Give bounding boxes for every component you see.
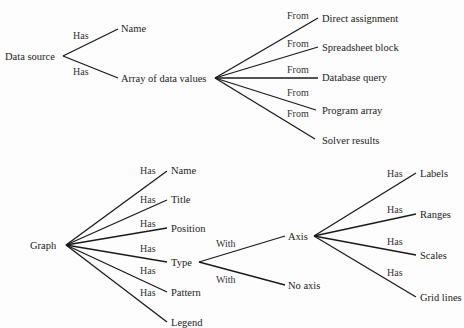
edge-label-has: Has (387, 267, 403, 278)
node-legend: Legend (171, 317, 203, 328)
node-spreadsheet-block: Spreadsheet block (322, 42, 399, 53)
diagram-canvas: Data source Name Array of data values Di… (0, 0, 464, 328)
node-scales: Scales (420, 250, 447, 261)
edge-type-no-axis (199, 262, 285, 285)
edge-label-with: With (216, 274, 236, 285)
node-direct-assignment: Direct assignment (322, 13, 398, 24)
node-solver-results: Solver results (322, 135, 379, 146)
edge-label-has: Has (140, 165, 156, 176)
node-position: Position (171, 223, 206, 234)
edge-label-has: Has (387, 204, 403, 215)
edge-data-source-name (63, 29, 118, 56)
edge-label-has: Has (73, 30, 89, 41)
edge-label-has: Has (140, 218, 156, 229)
node-no-axis: No axis (288, 280, 320, 291)
edge-label-from: From (287, 10, 309, 21)
node-name: Name (171, 165, 196, 176)
edge-label-from: From (287, 64, 309, 75)
edge-label-has: Has (140, 265, 156, 276)
node-graph: Graph (30, 240, 57, 251)
node-axis: Axis (288, 231, 308, 242)
node-title: Title (171, 194, 191, 205)
edge-axis-ranges (314, 214, 416, 236)
node-labels: Labels (420, 168, 448, 179)
edge-label-has: Has (387, 168, 403, 179)
data-source-tree: Data source Name Array of data values Di… (5, 10, 399, 146)
edge-label-from: From (287, 108, 309, 119)
node-name: Name (121, 23, 146, 34)
edge-graph-name (66, 171, 167, 245)
edge-label-with: With (216, 238, 236, 249)
node-program-array: Program array (322, 105, 383, 116)
edge-label-has: Has (387, 236, 403, 247)
edge-label-has: Has (140, 243, 156, 254)
edge-data-source-array (63, 56, 118, 78)
node-data-source: Data source (5, 51, 55, 62)
node-grid-lines: Grid lines (420, 292, 462, 303)
edge-label-has: Has (140, 194, 156, 205)
node-ranges: Ranges (420, 209, 451, 220)
edge-label-has: Has (73, 66, 89, 77)
node-pattern: Pattern (171, 287, 201, 298)
edge-label-from: From (287, 87, 309, 98)
edge-graph-legend (66, 245, 167, 322)
node-type: Type (171, 257, 192, 268)
node-array-of-data-values: Array of data values (121, 73, 206, 84)
edge-type-axis (199, 236, 285, 262)
edge-label-has: Has (140, 287, 156, 298)
tree-diagram: Data source Name Array of data values Di… (0, 0, 464, 328)
node-database-query: Database query (322, 72, 388, 83)
graph-tree: Graph Name Title Position Type Pattern L… (30, 165, 462, 328)
edge-label-from: From (287, 38, 309, 49)
